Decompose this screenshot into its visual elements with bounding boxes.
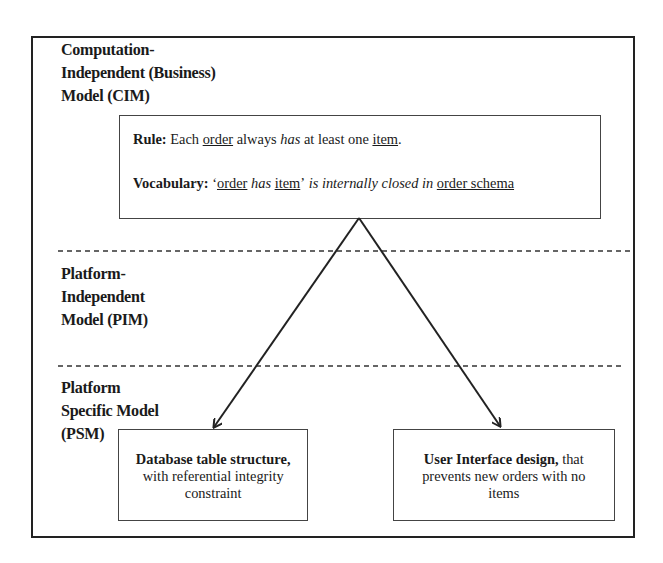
cim-label-line-3: Model (CIM) bbox=[61, 84, 216, 107]
psm-label-line-2: Specific Model bbox=[61, 399, 159, 422]
cim-label-line-2: Independent (Business) bbox=[61, 61, 216, 84]
database-box-text: Database table structure, with referenti… bbox=[136, 450, 291, 501]
term-order-schema: order schema bbox=[437, 174, 514, 191]
closed-text: is internally closed in bbox=[305, 174, 437, 191]
database-box-title: Database table structure, bbox=[136, 450, 291, 467]
ui-box-line-2: prevents new orders with no bbox=[422, 467, 585, 484]
vocabulary-label: Vocabulary: bbox=[133, 174, 209, 191]
database-structure-box: Database table structure, with referenti… bbox=[118, 429, 308, 521]
pim-layer-label: Platform- Independent Model (PIM) bbox=[61, 262, 148, 331]
rule-text: always bbox=[233, 130, 280, 147]
term-order: order bbox=[203, 130, 233, 147]
term-order: order bbox=[217, 174, 247, 191]
rule-text: Each bbox=[167, 130, 203, 147]
rule-text: . bbox=[398, 130, 402, 147]
ui-design-box: User Interface design, that prevents new… bbox=[393, 429, 615, 521]
ui-box-title: User Interface design, bbox=[424, 450, 559, 467]
rule-text: at least one bbox=[300, 130, 372, 147]
verb-has: has bbox=[280, 130, 300, 147]
cim-layer-label: Computation- Independent (Business) Mode… bbox=[61, 38, 216, 107]
term-item: item bbox=[372, 130, 398, 147]
ui-box-text: User Interface design, that prevents new… bbox=[422, 450, 585, 501]
pim-label-line-3: Model (PIM) bbox=[61, 308, 148, 331]
ui-box-title-rest: that bbox=[559, 450, 584, 467]
rule-statement: Rule: Each order always has at least one… bbox=[133, 130, 402, 148]
cim-label-line-1: Computation- bbox=[61, 38, 216, 61]
pim-label-line-2: Independent bbox=[61, 285, 148, 308]
ui-box-line-3: items bbox=[422, 484, 585, 501]
database-box-line-3: constraint bbox=[136, 484, 291, 501]
verb-has: has bbox=[251, 174, 271, 191]
vocabulary-statement: Vocabulary: ‘order has item’ is internal… bbox=[133, 174, 514, 192]
psm-label-line-1: Platform bbox=[61, 376, 159, 399]
term-item: item bbox=[275, 174, 301, 191]
rule-label: Rule: bbox=[133, 130, 167, 147]
database-box-line-2: with referential integrity bbox=[136, 467, 291, 484]
pim-label-line-1: Platform- bbox=[61, 262, 148, 285]
cim-rule-box: Rule: Each order always has at least one… bbox=[119, 115, 601, 219]
